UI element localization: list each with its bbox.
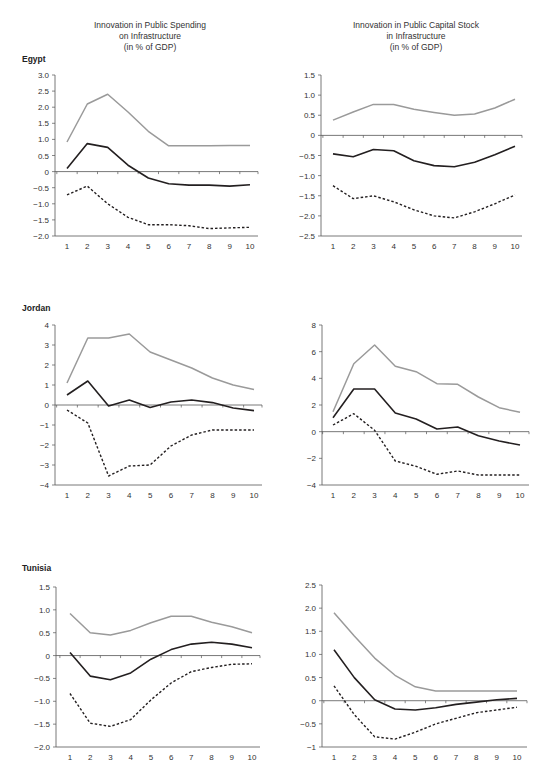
y-tick-label: −1.5	[33, 216, 49, 225]
x-tick-label: 5	[148, 491, 153, 500]
x-tick-label: 10	[250, 491, 259, 500]
x-tick-label: 2	[352, 753, 357, 762]
x-tick-label: 3	[108, 753, 113, 762]
x-tick-label: 6	[433, 753, 438, 762]
y-tick-label: −2.0	[299, 212, 315, 221]
series-upper	[67, 94, 250, 146]
y-tick-label: 1	[45, 381, 50, 390]
x-tick-label: 9	[494, 753, 499, 762]
y-tick-label: 0	[312, 697, 317, 706]
y-tick-label: 1.0	[38, 135, 50, 144]
series-lower	[333, 414, 520, 475]
y-tick-label: 1.0	[305, 650, 317, 659]
series-estimate	[333, 389, 520, 445]
x-tick-label: 4	[393, 753, 398, 762]
series-upper	[334, 613, 517, 691]
y-tick-label: 0	[46, 652, 51, 661]
y-tick-label: −1.5	[34, 720, 50, 729]
y-tick-label: 0	[312, 428, 317, 437]
x-tick-label: 3	[371, 242, 376, 251]
chart-egypt-capital-stock: 1.51.00.50−0.5−1.0−1.5−2.0−2.51234567891…	[299, 71, 522, 251]
y-tick-label: 0.5	[304, 111, 316, 120]
y-tick-label: 3.0	[38, 71, 50, 80]
x-tick-label: 4	[128, 753, 133, 762]
x-tick-label: 7	[452, 242, 457, 251]
y-tick-label: 1.5	[38, 119, 50, 128]
x-tick-label: 10	[248, 753, 257, 762]
y-tick-label: 0.5	[305, 674, 317, 683]
y-tick-label: −4	[307, 481, 317, 490]
x-tick-label: 2	[85, 242, 90, 251]
series-lower	[334, 686, 517, 739]
x-tick-label: 8	[210, 491, 215, 500]
series-lower	[67, 410, 254, 476]
y-tick-label: 2.5	[305, 581, 317, 590]
x-tick-label: 10	[511, 242, 520, 251]
y-tick-label: −0.5	[300, 720, 316, 729]
series-upper	[67, 334, 254, 389]
y-tick-label: 2	[312, 401, 317, 410]
x-tick-label: 5	[149, 753, 154, 762]
y-tick-label: −1.5	[299, 192, 315, 201]
x-tick-label: 7	[454, 753, 459, 762]
y-tick-label: 6	[312, 348, 317, 357]
y-tick-label: 0	[311, 131, 316, 140]
impulse-response-charts: 3.02.52.01.51.00.50−0.5−1.0−1.5−2.012345…	[0, 0, 548, 769]
series-lower	[333, 186, 515, 218]
x-tick-label: 5	[146, 242, 151, 251]
y-tick-label: −1.0	[34, 697, 50, 706]
x-tick-label: 9	[497, 491, 502, 500]
series-estimate	[70, 642, 252, 680]
y-tick-label: −1.0	[33, 200, 49, 209]
y-tick-label: −1	[40, 421, 50, 430]
x-tick-label: 4	[393, 491, 398, 500]
y-tick-label: −2.5	[299, 232, 315, 241]
x-tick-label: 8	[476, 491, 481, 500]
chart-jordan-spending: 43210−1−2−3−412345678910	[40, 321, 262, 500]
x-tick-label: 1	[331, 491, 336, 500]
x-tick-label: 1	[332, 753, 337, 762]
x-tick-label: 2	[88, 753, 93, 762]
x-tick-label: 1	[65, 242, 70, 251]
x-tick-label: 4	[127, 491, 132, 500]
y-tick-label: −4	[40, 481, 50, 490]
x-tick-label: 10	[246, 242, 255, 251]
x-tick-label: 3	[106, 491, 111, 500]
y-tick-label: −3	[40, 461, 50, 470]
x-tick-label: 9	[227, 242, 232, 251]
x-tick-label: 6	[435, 491, 440, 500]
chart-tunisia-spending: 1.51.00.50−0.5−1.0−1.5−2.012345678910	[34, 583, 260, 762]
chart-jordan-capital-stock: 86420−2−412345678910	[307, 321, 529, 500]
series-lower	[70, 664, 252, 727]
y-tick-label: −2	[307, 454, 317, 463]
x-tick-label: 7	[189, 753, 194, 762]
x-tick-label: 2	[351, 242, 356, 251]
x-tick-label: 6	[169, 491, 174, 500]
chart-tunisia-capital-stock: 2.52.01.51.00.50−0.5−112345678910	[300, 581, 527, 762]
y-tick-label: 0.5	[38, 152, 50, 161]
x-tick-label: 3	[105, 242, 110, 251]
y-tick-label: 0	[45, 401, 50, 410]
y-tick-label: 4	[45, 321, 50, 330]
series-upper	[333, 99, 515, 120]
chart-egypt-spending: 3.02.52.01.51.00.50−0.5−1.0−1.5−2.012345…	[33, 71, 258, 251]
series-upper	[70, 614, 252, 636]
x-tick-label: 3	[372, 491, 377, 500]
y-tick-label: 1.5	[304, 71, 316, 80]
y-tick-label: −2	[40, 441, 50, 450]
x-tick-label: 6	[169, 753, 174, 762]
y-tick-label: 1.5	[305, 627, 317, 636]
series-upper	[333, 345, 520, 412]
x-tick-label: 7	[187, 242, 192, 251]
x-tick-label: 10	[513, 753, 522, 762]
series-estimate	[67, 144, 250, 187]
x-tick-label: 6	[432, 242, 437, 251]
x-tick-label: 9	[230, 753, 235, 762]
y-tick-label: 0.5	[39, 629, 51, 638]
x-tick-label: 9	[493, 242, 498, 251]
y-tick-label: 0	[45, 168, 50, 177]
x-tick-label: 4	[391, 242, 396, 251]
x-tick-label: 7	[455, 491, 460, 500]
x-tick-label: 1	[331, 242, 336, 251]
x-tick-label: 2	[352, 491, 357, 500]
